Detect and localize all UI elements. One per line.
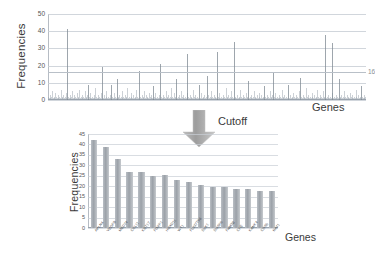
bar xyxy=(160,64,161,100)
top-frequency-chart: Frequencies 01020304050 16 Genes xyxy=(0,2,371,120)
bar xyxy=(162,175,168,228)
y-tick-label: 0 xyxy=(30,97,45,104)
bar xyxy=(91,140,97,228)
y-tick-label: 5 xyxy=(73,215,85,221)
bar xyxy=(187,54,188,100)
y-tick-label: 35 xyxy=(73,152,85,158)
bar xyxy=(210,187,216,228)
bar xyxy=(234,42,235,100)
bottom-chart-y-axis xyxy=(88,134,89,228)
bottom-filtered-chart: Frequencies 051015202530354045 APLN4VEGF… xyxy=(0,128,371,272)
y-tick-label: 25 xyxy=(73,173,85,179)
y-tick-label: 20 xyxy=(30,63,45,70)
bar xyxy=(115,159,121,228)
y-tick-label: 20 xyxy=(73,184,85,190)
bar xyxy=(269,191,275,228)
bottom-chart-x-axis-title: Genes xyxy=(285,231,316,243)
top-chart-y-axis-title: Frequencies xyxy=(15,18,27,94)
gridline xyxy=(48,14,366,15)
y-tick-label: 0 xyxy=(73,226,85,232)
bar xyxy=(150,176,156,228)
bar xyxy=(103,147,109,228)
y-tick-label: 50 xyxy=(30,11,45,18)
top-chart-plot-area: 01020304050 xyxy=(48,14,366,100)
bar xyxy=(126,172,132,228)
bar xyxy=(217,52,218,100)
y-tick-label: 40 xyxy=(73,142,85,148)
cutoff-caption: Cutoff xyxy=(218,115,247,127)
top-chart-cutoff-line xyxy=(48,72,366,73)
bar xyxy=(365,97,366,100)
bottom-chart-plot-area: 051015202530354045 xyxy=(88,134,278,228)
bar xyxy=(245,189,251,228)
gridline xyxy=(48,31,366,32)
bar xyxy=(186,182,192,228)
y-tick-label: 45 xyxy=(73,132,85,138)
cutoff-value-label: 16 xyxy=(368,68,375,75)
gridline xyxy=(48,48,366,49)
top-chart-x-axis-title: Genes xyxy=(312,101,344,113)
bar xyxy=(138,172,144,228)
gridline xyxy=(88,155,278,156)
gridline xyxy=(48,66,366,67)
y-tick-label: 30 xyxy=(30,45,45,52)
top-chart-y-axis xyxy=(48,14,49,100)
gridline xyxy=(88,134,278,135)
gridline xyxy=(88,144,278,145)
y-tick-label: 30 xyxy=(73,163,85,169)
y-tick-label: 10 xyxy=(30,80,45,87)
y-tick-label: 15 xyxy=(73,194,85,200)
y-tick-label: 40 xyxy=(30,28,45,35)
y-tick-label: 10 xyxy=(73,205,85,211)
bar xyxy=(67,29,68,100)
bar xyxy=(325,35,326,100)
